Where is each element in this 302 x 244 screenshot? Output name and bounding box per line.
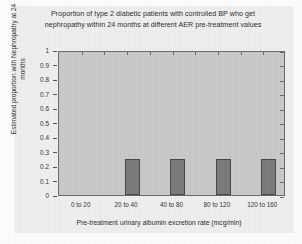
y-tick-label: 0.8 xyxy=(40,75,49,85)
right-axis-tick xyxy=(280,81,284,82)
right-axis-tick xyxy=(280,197,284,198)
y-axis-ticks: 10.90.80.70.60.50.40.30.20.10 xyxy=(0,44,58,204)
x-tick-label-120-to-160: 120 to 160 xyxy=(240,200,285,210)
bar-120-to-160 xyxy=(261,159,276,195)
x-axis-label: Pre-treatment urinary albumin excretion … xyxy=(34,219,284,226)
right-axis-tick xyxy=(280,124,284,125)
y-tick-label: 0.3 xyxy=(40,148,49,158)
right-axis-tick xyxy=(280,182,284,183)
y-tick-mark xyxy=(53,167,57,168)
right-axis-tick xyxy=(280,95,284,96)
y-tick-mark xyxy=(53,80,57,81)
y-tick-0: 0 xyxy=(0,191,58,201)
right-axis-tick xyxy=(280,52,284,53)
top-axis-tick xyxy=(82,52,83,55)
bar-80-to-120 xyxy=(216,159,231,195)
y-tick-1: 1 xyxy=(0,46,58,56)
y-tick-0.7: 0.7 xyxy=(0,90,58,100)
y-tick-mark xyxy=(53,181,57,182)
y-tick-mark xyxy=(53,109,57,110)
x-axis-ticks: 0 to 2020 to 4040 to 8080 to 120120 to 1… xyxy=(58,200,285,212)
top-axis-tick xyxy=(218,52,219,55)
y-tick-label: 0 xyxy=(45,191,49,201)
y-tick-0.9: 0.9 xyxy=(0,61,58,71)
y-tick-label: 0.5 xyxy=(40,119,49,129)
chart-title-line-1: Proportion of type 2 diabetic patients w… xyxy=(28,9,278,20)
x-tick-label-0-to-20: 0 to 20 xyxy=(58,200,103,210)
y-tick-label: 0.6 xyxy=(40,104,49,114)
y-tick-label: 1 xyxy=(45,46,49,56)
y-tick-0.4: 0.4 xyxy=(0,133,58,143)
chart-page: Proportion of type 2 diabetic patients w… xyxy=(0,0,302,244)
y-tick-mark xyxy=(53,65,57,66)
y-tick-label: 0.7 xyxy=(40,90,49,100)
y-tick-mark xyxy=(53,138,57,139)
x-tick-label-20-to-40: 20 to 40 xyxy=(103,200,148,210)
y-tick-label: 0.2 xyxy=(40,162,49,172)
y-tick-0.5: 0.5 xyxy=(0,119,58,129)
y-tick-0.6: 0.6 xyxy=(0,104,58,114)
right-axis-tick xyxy=(280,66,284,67)
y-tick-label: 0.9 xyxy=(40,61,49,71)
y-tick-mark xyxy=(53,94,57,95)
top-axis-tick xyxy=(150,52,151,55)
right-axis-tick xyxy=(280,139,284,140)
bar-40-to-80 xyxy=(170,159,185,195)
chart-title: Proportion of type 2 diabetic patients w… xyxy=(28,9,278,30)
y-tick-label: 0.1 xyxy=(40,177,49,187)
x-tick-label-40-to-80: 40 to 80 xyxy=(149,200,194,210)
y-tick-mark xyxy=(53,51,57,52)
y-tick-0.3: 0.3 xyxy=(0,148,58,158)
y-tick-0.2: 0.2 xyxy=(0,162,58,172)
bar-20-to-40 xyxy=(125,159,140,195)
y-tick-label: 0.4 xyxy=(40,133,49,143)
top-axis-tick xyxy=(173,52,174,55)
y-tick-0.8: 0.8 xyxy=(0,75,58,85)
y-tick-mark xyxy=(53,152,57,153)
plot-area xyxy=(58,51,285,196)
y-tick-mark xyxy=(53,196,57,197)
chart-title-line-2: nephropathy within 24 months at differen… xyxy=(28,20,278,31)
y-tick-0.1: 0.1 xyxy=(0,177,58,187)
x-tick-label-80-to-120: 80 to 120 xyxy=(194,200,239,210)
right-axis-tick xyxy=(280,153,284,154)
right-axis-tick xyxy=(280,110,284,111)
top-axis-tick xyxy=(104,52,105,55)
top-axis-tick xyxy=(195,52,196,55)
top-axis-tick xyxy=(127,52,128,55)
y-tick-mark xyxy=(53,123,57,124)
top-axis-tick xyxy=(263,52,264,55)
right-axis-tick xyxy=(280,168,284,169)
top-axis-tick xyxy=(241,52,242,55)
